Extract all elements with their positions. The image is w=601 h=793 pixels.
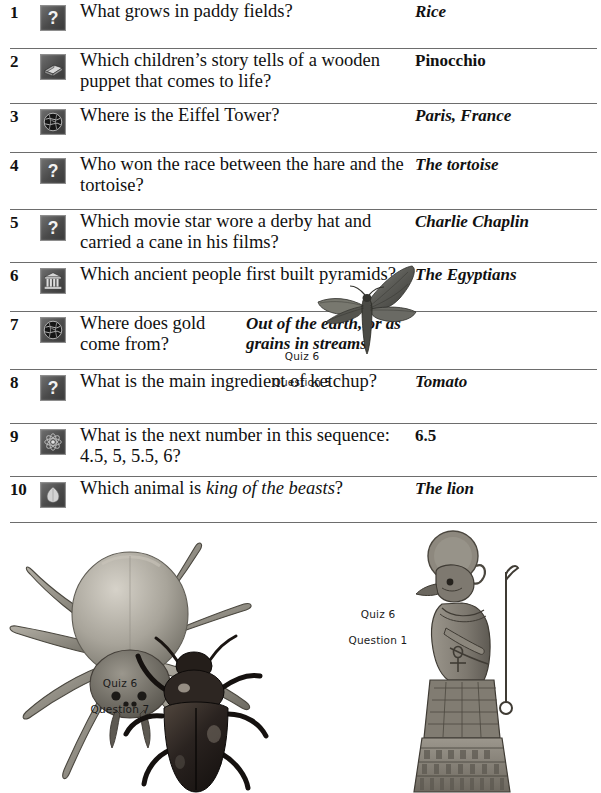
temple-icon [40,268,66,294]
spider-beetle-caption-line2: Question 7 [91,703,150,715]
quiz-row: 4 ? Who won the race between the hare an… [0,153,601,210]
question-number: 7 [10,312,40,333]
quiz-row: 3 Where is the Eiffel Tower? Paris, Fran… [0,104,601,153]
question-text-prefix: Which animal is [80,478,206,498]
question-number: 2 [10,49,40,70]
globe-icon [40,317,66,343]
question-text-emphasis: king of the beasts [206,478,335,498]
egyptian-god-illustration [398,524,548,793]
quiz-row: 2 Which children’s story tells of a wood… [0,49,601,104]
egyptian-god-caption: Quiz 6 Question 1 [333,595,423,648]
quiz-row: 9 What is the next number in this sequen… [0,424,601,477]
leaf-icon [40,482,66,508]
question-mark-icon: ? [40,158,66,184]
answer-text: 6.5 [415,424,597,446]
spider-beetle-caption: Quiz 6 Question 7 [75,664,165,717]
quiz-row: 5 ? Which movie star wore a derby hat an… [0,210,601,263]
svg-text:?: ? [48,8,59,28]
question-text: What is the next number in this sequence… [80,424,415,468]
question-number: 5 [10,210,40,231]
answer-text: Rice [415,0,597,22]
question-number: 10 [10,477,40,498]
book-icon [40,54,66,80]
question-mark-icon: ? [40,5,66,31]
question-mark-icon: ? [40,215,66,241]
question-number: 3 [10,104,40,125]
svg-text:?: ? [48,378,59,398]
question-number: 1 [10,0,40,21]
svg-text:?: ? [48,161,59,181]
question-text: Where is the Eiffel Tower? [80,104,415,126]
question-text: What grows in paddy fields? [80,0,415,22]
moth-caption-line2: Question 5 [273,376,332,388]
answer-text: Charlie Chaplin [415,210,597,232]
moth-caption: Quiz 6 Question 5 [262,337,342,390]
question-text: Which animal is king of the beasts? [80,477,415,499]
egyptian-god-caption-line1: Quiz 6 [361,608,396,620]
question-number: 4 [10,153,40,174]
question-text: Which children’s story tells of a wooden… [80,49,415,93]
globe-icon [40,109,66,135]
question-number: 8 [10,370,40,391]
answer-text: Tomato [415,370,597,392]
svg-text:?: ? [48,218,59,238]
question-number: 6 [10,263,40,284]
quiz-table: 1 ? What grows in paddy fields? Rice 2 W… [0,0,601,521]
question-number: 9 [10,424,40,445]
answer-text: Paris, France [415,104,597,126]
answer-text: Pinocchio [415,49,597,71]
spider-beetle-caption-line1: Quiz 6 [103,677,138,689]
answer-text: The lion [415,477,597,499]
egyptian-god-caption-line2: Question 1 [349,634,408,646]
atom-icon [40,429,66,455]
question-text: Who won the race between the hare and th… [80,153,415,197]
quiz-row: 1 ? What grows in paddy fields? Rice [0,0,601,49]
question-text: Which movie star wore a derby hat and ca… [80,210,415,254]
question-text: What is the main ingredient of ketchup? [80,370,415,392]
question-text-suffix: ? [335,478,343,498]
moth-caption-line1: Quiz 6 [285,350,320,362]
answer-text: The Egyptians [415,263,597,285]
answer-text: The tortoise [415,153,597,175]
question-text: Where does gold come from? [80,312,246,356]
question-mark-icon: ? [40,375,66,401]
